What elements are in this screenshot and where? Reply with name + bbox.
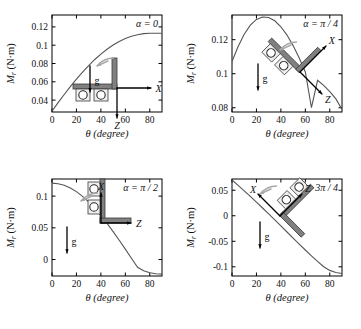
beam-web <box>112 58 117 89</box>
x-axis-arrow-label: X <box>249 184 257 195</box>
x-tick-label: 20 <box>252 279 262 289</box>
y-axis-label-unit: (N·m) <box>185 43 197 72</box>
x-tick-label: 0 <box>230 279 235 289</box>
gravity-label: g <box>263 73 268 84</box>
y-tick-label: 0 <box>43 255 48 265</box>
x-axis-arrow-label: X <box>97 181 105 192</box>
y-axis-label-unit: (N·m) <box>185 207 197 236</box>
x-axis-label: θ (degree) <box>266 292 309 304</box>
x-tick-label: 40 <box>96 115 106 125</box>
y-axis-label: Mr (N·m) <box>5 43 18 85</box>
x-axis-arrow-label: X <box>154 83 162 94</box>
subplot-alpha-0: 0204060800.040.060.080.10.12θ (degree)Mr… <box>0 0 180 164</box>
roller-1 <box>97 91 105 99</box>
x-tick-label: 80 <box>325 279 335 289</box>
z-axis-arrow-head <box>115 114 118 118</box>
alpha-annotation: α = π / 4 <box>303 18 338 29</box>
x-axis-label: θ (degree) <box>266 128 309 140</box>
beam-web <box>100 218 131 223</box>
subplot-alpha-3pi-4: 0204060800.050-0.05-0.1θ (degree)Mr (N·m… <box>180 164 360 328</box>
y-tick-label: 0.1 <box>216 69 228 79</box>
figure-container: 0204060800.040.060.080.10.12θ (degree)Mr… <box>0 0 361 329</box>
x-tick-label: 20 <box>72 279 82 289</box>
x-tick-label: 0 <box>50 115 55 125</box>
x-tick-label: 60 <box>301 115 311 125</box>
y-axis-label-unit: (N·m) <box>5 43 17 72</box>
x-tick-label: 20 <box>72 115 82 125</box>
y-tick-label: 0.05 <box>31 223 48 233</box>
x-tick-label: 80 <box>145 115 155 125</box>
panel-alpha-3pi-4: 0204060800.050-0.05-0.1θ (degree)Mr (N·m… <box>180 164 360 328</box>
gravity-label: g <box>265 231 270 242</box>
alpha-annotation: α = 0 <box>136 18 158 29</box>
z-axis-arrow-label: Z <box>325 94 331 105</box>
x-axis-label: θ (degree) <box>86 128 129 140</box>
y-tick-label: 0.04 <box>31 96 48 106</box>
roller-0 <box>79 91 87 99</box>
x-tick-label: 60 <box>121 279 131 289</box>
subplot-alpha-pi-2: 02040608000.050.1θ (degree)Mr (N·m)α = π… <box>0 164 180 328</box>
y-tick-label: 0.1 <box>36 41 48 51</box>
y-tick-label: 0 <box>223 211 228 221</box>
y-tick-label: 0.08 <box>31 59 48 69</box>
y-tick-label: 0.12 <box>31 22 48 32</box>
z-axis-arrow-label: Z <box>114 120 120 131</box>
panel-alpha-pi-2: 02040608000.050.1θ (degree)Mr (N·m)α = π… <box>0 164 180 328</box>
x-tick-label: 80 <box>325 115 335 125</box>
y-tick-label: 0.06 <box>31 77 48 87</box>
x-tick-label: 40 <box>276 279 286 289</box>
gravity-label: g <box>72 236 77 247</box>
y-axis-label: Mr (N·m) <box>185 43 198 85</box>
y-tick-label: 0.12 <box>211 35 228 45</box>
z-axis-arrow-label: Z <box>136 218 142 229</box>
y-axis-label: Mr (N·m) <box>185 207 198 249</box>
x-axis-arrow-label: X <box>328 35 336 46</box>
y-tick-label: 0.05 <box>211 186 228 196</box>
roller-0 <box>90 185 98 193</box>
x-tick-label: 20 <box>252 115 262 125</box>
y-axis-label-unit: (N·m) <box>5 207 17 236</box>
x-tick-label: 60 <box>301 279 311 289</box>
x-tick-label: 40 <box>276 115 286 125</box>
subplot-alpha-pi-4: 0204060800.080.10.12θ (degree)Mr (N·m)α … <box>180 0 360 164</box>
alpha-annotation: α = π / 2 <box>123 182 158 193</box>
plot-frame <box>52 179 162 276</box>
x-tick-label: 40 <box>96 279 106 289</box>
y-axis-label: Mr (N·m) <box>5 207 18 249</box>
panel-alpha-pi-4: 0204060800.080.10.12θ (degree)Mr (N·m)α … <box>180 0 360 164</box>
x-tick-label: 80 <box>145 279 155 289</box>
y-tick-label: 0.08 <box>211 103 228 113</box>
x-tick-label: 0 <box>230 115 235 125</box>
x-axis-label: θ (degree) <box>86 292 129 304</box>
y-tick-label: -0.1 <box>213 262 228 272</box>
panel-alpha-0: 0204060800.040.060.080.10.12θ (degree)Mr… <box>0 0 180 164</box>
y-tick-label: 0.1 <box>36 192 48 202</box>
z-axis-arrow-label: Z <box>305 183 311 194</box>
x-tick-label: 60 <box>121 115 131 125</box>
y-tick-label: -0.05 <box>208 237 228 247</box>
x-tick-label: 0 <box>50 279 55 289</box>
gravity-label: g <box>95 75 100 86</box>
roller-1 <box>90 203 98 211</box>
